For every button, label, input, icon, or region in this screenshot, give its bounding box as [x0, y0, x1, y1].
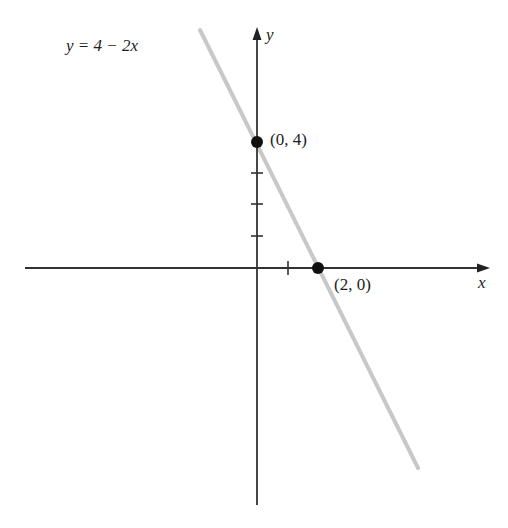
point-0-4 [251, 136, 263, 148]
x-axis-arrow-icon [477, 264, 490, 273]
point-2-0 [312, 262, 324, 274]
point-2-0-label: (2, 0) [334, 276, 371, 293]
equation-label: y = 4 − 2x [66, 37, 138, 54]
x-axis-label: x [478, 274, 486, 291]
point-0-4-label: (0, 4) [270, 131, 307, 148]
y-axis-arrow-icon [253, 27, 262, 40]
y-axis-label: y [266, 26, 274, 43]
chart-plot-area [0, 0, 508, 528]
line-y-equals-4-minus-2x [200, 30, 418, 468]
